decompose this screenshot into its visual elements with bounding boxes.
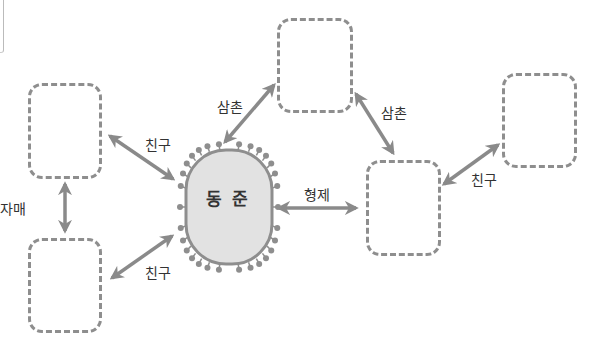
label-brothers: 형제	[304, 184, 330, 204]
label-friend-left-bottom: 친구	[145, 262, 171, 282]
box-left-top	[28, 83, 102, 179]
box-right-middle	[366, 160, 441, 256]
label-friend-right: 친구	[471, 169, 497, 189]
label-uncle-left: 삼촌	[217, 96, 243, 116]
box-right-top	[502, 73, 577, 168]
box-left-bottom	[28, 238, 102, 333]
box-top	[277, 18, 353, 113]
center-node-name: 동 준	[180, 185, 276, 210]
label-uncle-right: 삼촌	[381, 102, 407, 122]
label-friend-left-top: 친구	[145, 134, 171, 154]
label-sisters: 자매	[0, 198, 26, 218]
